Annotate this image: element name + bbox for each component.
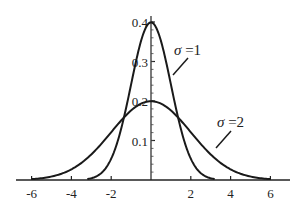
annotation-sigma-1: σ =1: [174, 42, 201, 58]
x-tick-label: 2: [188, 186, 195, 201]
x-tick-label: -2: [106, 186, 117, 201]
leader-line-sigma-1: [173, 58, 188, 75]
x-tick-label: -6: [26, 186, 37, 201]
annotation-sigma-2: σ =2: [217, 114, 244, 130]
x-tick-label: -4: [66, 186, 77, 201]
normal-distribution-chart: -6-4-2246 0.10.20.30.4 σ =1 σ =2: [0, 0, 297, 212]
leader-line-sigma-2: [216, 131, 231, 148]
x-tick-label: 6: [267, 186, 274, 201]
x-tick-label: 4: [227, 186, 234, 201]
y-tick-label: 0.1: [132, 134, 148, 149]
